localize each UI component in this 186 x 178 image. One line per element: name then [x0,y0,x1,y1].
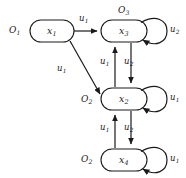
self-loop-label-x2: u1 [170,93,179,102]
self-loop-x4 [141,147,167,172]
output-label-O2-bottom: O2 [81,155,92,164]
diagram-canvas: x1 x3 x2 x4 O1 O3 O2 O2 u1 u1 u1 u2 u1 u… [0,0,186,178]
transition-label-x4-x2: u1 [100,123,109,132]
self-loop-x3 [141,18,167,43]
state-label-x4: x4 [119,155,128,165]
output-label-O3: O3 [118,6,129,15]
transition-x1-to-x2 [70,41,100,94]
output-label-O2-middle: O2 [81,95,92,104]
state-label-x2: x2 [119,94,128,104]
state-label-x3: x3 [119,26,128,36]
self-loop-x2 [141,86,167,111]
transition-label-x1-x2: u1 [57,64,66,73]
state-label-x1: x1 [47,26,56,36]
transition-label-x3-x2: u2 [124,57,133,66]
transition-label-x1-x3: u1 [79,14,88,23]
transition-label-x2-x3: u1 [100,57,109,66]
self-loop-label-x3: u2 [170,25,179,34]
output-label-O1: O1 [9,26,20,35]
self-loop-label-x4: u1 [170,154,179,163]
transition-label-x2-x4: u2 [124,123,133,132]
state-diagram-svg [0,0,186,178]
